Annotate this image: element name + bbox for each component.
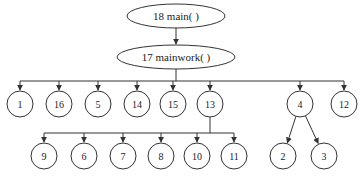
node-label: 9 <box>42 151 47 162</box>
node-13: 13 <box>197 91 223 117</box>
node-label: 5 <box>96 99 101 110</box>
node-label: 15 <box>168 99 178 110</box>
node-label: 6 <box>82 151 87 162</box>
node-label: 8 <box>159 151 164 162</box>
edge-4-3 <box>305 116 318 143</box>
node-label: 7 <box>121 151 126 162</box>
node-label: 16 <box>54 99 64 110</box>
node-10: 10 <box>184 143 210 169</box>
node-1: 1 <box>7 91 33 117</box>
node-14: 14 <box>124 91 150 117</box>
node-label: 4 <box>298 99 303 110</box>
node-2: 2 <box>270 143 296 169</box>
node-11: 11 <box>221 143 247 169</box>
node-label: 1 <box>18 99 23 110</box>
call-tree-diagram: 18 main( )17 mainwork( )1165141513412967… <box>0 0 361 178</box>
node-label: 11 <box>229 151 239 162</box>
node-label: 12 <box>339 99 349 110</box>
node-label: 14 <box>132 99 142 110</box>
node-8: 8 <box>148 143 174 169</box>
edge-4-2 <box>287 116 296 142</box>
node-7: 7 <box>110 143 136 169</box>
node-label: 2 <box>281 151 286 162</box>
node-16: 16 <box>46 91 72 117</box>
node-4: 4 <box>287 91 313 117</box>
node-15: 15 <box>160 91 186 117</box>
node-label: 13 <box>205 99 215 110</box>
node-label: 3 <box>322 151 327 162</box>
node-18: 18 main( ) <box>127 4 225 28</box>
node-label: 18 main( ) <box>153 10 199 23</box>
node-3: 3 <box>311 143 337 169</box>
node-12: 12 <box>331 91 357 117</box>
node-9: 9 <box>31 143 57 169</box>
node-17: 17 mainwork( ) <box>117 45 235 69</box>
node-5: 5 <box>85 91 111 117</box>
node-label: 17 mainwork( ) <box>142 51 211 64</box>
node-6: 6 <box>71 143 97 169</box>
node-label: 10 <box>192 151 202 162</box>
